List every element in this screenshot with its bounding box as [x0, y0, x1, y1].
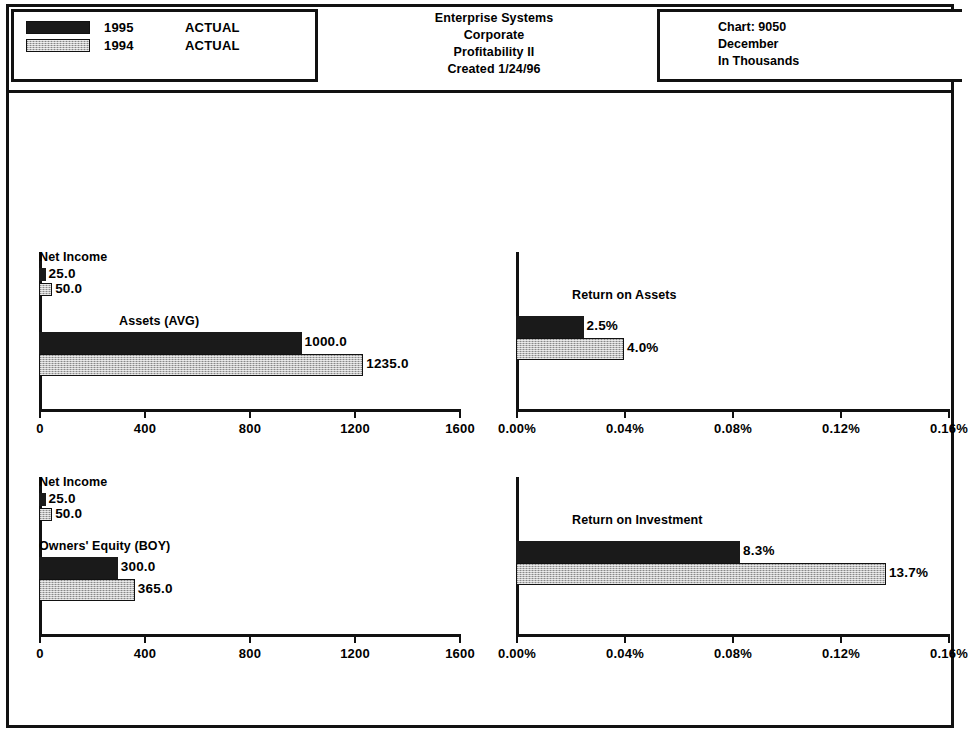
- chart-panel-assets: 040080012001600Net Income25.050.0Assets …: [33, 252, 485, 434]
- x-axis-tick-label: 0.08%: [714, 421, 752, 436]
- x-axis-tick-label: 400: [134, 646, 156, 661]
- title-line-report: Profitability II: [339, 44, 649, 61]
- bar-value-label: 50.0: [55, 281, 82, 296]
- page-frame: 1995 ACTUAL 1994 ACTUAL Enterprise Syste…: [6, 4, 954, 728]
- bar-1995: [516, 541, 740, 563]
- bar-group-label: Assets (AVG): [119, 314, 199, 328]
- x-axis-tick: [144, 409, 146, 418]
- bar-group-label: Return on Investment: [572, 513, 703, 527]
- bar-1995: [39, 493, 46, 506]
- bar-1995: [39, 557, 118, 579]
- info-line-chart-number: Chart: 9050: [718, 19, 786, 35]
- x-axis-tick-label: 1200: [340, 421, 370, 436]
- x-axis-tick: [840, 409, 842, 418]
- bar-1995: [39, 268, 46, 281]
- title-line-division: Corporate: [339, 27, 649, 44]
- bar-value-label: 50.0: [55, 506, 82, 521]
- legend-year-1995: 1995: [104, 20, 134, 35]
- x-axis-tick-label: 0.00%: [498, 421, 536, 436]
- bar-1995: [39, 332, 302, 354]
- bar-value-label: 1235.0: [366, 356, 409, 371]
- x-axis-tick: [39, 409, 41, 418]
- bar-value-label: 365.0: [138, 581, 173, 596]
- bar-value-label: 4.0%: [627, 340, 659, 355]
- bar-group-label: Net Income: [39, 475, 107, 489]
- legend-swatch-1994: [26, 39, 90, 52]
- x-axis-tick: [624, 634, 626, 643]
- x-axis-tick-label: 0.00%: [498, 646, 536, 661]
- bar-value-label: 1000.0: [305, 334, 348, 349]
- bar-value-label: 13.7%: [889, 565, 928, 580]
- x-axis-tick-label: 0: [36, 421, 43, 436]
- x-axis-tick: [516, 634, 518, 643]
- chart-panel-return-on-investment: 0.00%0.04%0.08%0.12%0.16%Return on Inves…: [510, 477, 962, 659]
- bar-value-label: 300.0: [121, 559, 156, 574]
- x-axis-tick: [354, 634, 356, 643]
- x-axis-tick: [624, 409, 626, 418]
- legend-year-1994: 1994: [104, 38, 134, 53]
- x-axis-tick: [840, 634, 842, 643]
- legend-box: 1995 ACTUAL 1994 ACTUAL: [11, 9, 318, 82]
- chart-info-box: Chart: 9050 December In Thousands: [657, 9, 962, 82]
- x-axis-tick: [516, 409, 518, 418]
- x-axis-tick: [732, 634, 734, 643]
- x-axis-tick: [249, 634, 251, 643]
- x-axis-tick: [732, 409, 734, 418]
- legend-swatch-1995: [26, 21, 90, 34]
- x-axis-tick-label: 1600: [445, 646, 475, 661]
- header-band: 1995 ACTUAL 1994 ACTUAL Enterprise Syste…: [9, 7, 951, 93]
- x-axis-tick-label: 0.04%: [606, 646, 644, 661]
- x-axis-tick-label: 800: [239, 646, 261, 661]
- x-axis-tick-label: 0.16%: [930, 421, 968, 436]
- bar-1994: [39, 508, 52, 521]
- x-axis-tick-label: 400: [134, 421, 156, 436]
- bar-group-label: Return on Assets: [572, 288, 677, 302]
- bar-value-label: 25.0: [49, 266, 76, 281]
- bar-value-label: 2.5%: [587, 318, 619, 333]
- x-axis-tick-label: 1600: [445, 421, 475, 436]
- x-axis-tick-label: 0.08%: [714, 646, 752, 661]
- bar-1995: [516, 316, 584, 338]
- x-axis-tick: [249, 409, 251, 418]
- x-axis-tick: [459, 634, 461, 643]
- x-axis-tick-label: 800: [239, 421, 261, 436]
- x-axis-tick: [459, 409, 461, 418]
- x-axis-tick: [354, 409, 356, 418]
- bar-value-label: 25.0: [49, 491, 76, 506]
- chart-panel-return-on-assets: 0.00%0.04%0.08%0.12%0.16%Return on Asset…: [510, 252, 962, 434]
- x-axis-tick: [948, 409, 950, 418]
- info-line-period: December: [718, 36, 778, 52]
- bar-1994: [39, 579, 135, 601]
- report-title-block: Enterprise Systems Corporate Profitabili…: [339, 10, 649, 78]
- legend-scenario-1994: ACTUAL: [185, 38, 240, 53]
- info-line-units: In Thousands: [718, 53, 799, 69]
- title-line-created: Created 1/24/96: [339, 61, 649, 78]
- bar-1994: [39, 283, 52, 296]
- x-axis-tick-label: 0.12%: [822, 646, 860, 661]
- x-axis-tick-label: 0.04%: [606, 421, 644, 436]
- x-axis-tick-label: 0.12%: [822, 421, 860, 436]
- legend-scenario-1995: ACTUAL: [185, 20, 240, 35]
- x-axis-tick-label: 0.16%: [930, 646, 968, 661]
- x-axis-tick: [39, 634, 41, 643]
- x-axis-tick-label: 0: [36, 646, 43, 661]
- x-axis-tick: [144, 634, 146, 643]
- bar-1994: [516, 338, 624, 360]
- bar-1994: [39, 354, 363, 376]
- bar-value-label: 8.3%: [743, 543, 775, 558]
- bar-group-label: Net Income: [39, 250, 107, 264]
- x-axis-tick-label: 1200: [340, 646, 370, 661]
- title-line-company: Enterprise Systems: [339, 10, 649, 27]
- bar-group-label: Owners' Equity (BOY): [39, 539, 170, 553]
- bar-1994: [516, 563, 886, 585]
- chart-panel-owners-equity: 040080012001600Net Income25.050.0Owners'…: [33, 477, 485, 659]
- x-axis-tick: [948, 634, 950, 643]
